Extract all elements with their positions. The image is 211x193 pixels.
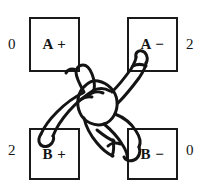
quadrant-box-b-plus: B + xyxy=(29,128,80,180)
quadrant-label-a-minus: A − xyxy=(141,37,165,52)
quadrant-label-b-minus: B − xyxy=(141,147,165,162)
score-value-a-plus: 0 xyxy=(8,37,16,52)
score-value-b-minus: 0 xyxy=(186,143,194,158)
quadrant-label-b-plus: B + xyxy=(43,147,67,162)
quadrant-box-b-minus: B − xyxy=(127,128,178,180)
score-value-a-minus: 2 xyxy=(186,37,194,52)
quadrant-box-a-plus: A + xyxy=(29,17,80,72)
quadrant-box-a-minus: A − xyxy=(127,17,178,72)
quadrant-score-figure: A + A − B + B − 0 2 2 0 xyxy=(0,0,211,193)
score-value-b-plus: 2 xyxy=(8,143,16,158)
quadrant-label-a-plus: A + xyxy=(43,37,67,52)
